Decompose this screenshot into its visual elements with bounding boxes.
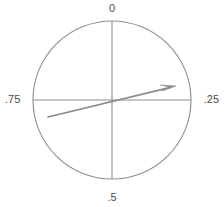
dial-tick-label-top: 0 bbox=[0, 3, 224, 14]
phase-dial-figure: 0 .25 .5 .75 bbox=[0, 0, 224, 207]
dial-tick-label-bottom: .5 bbox=[0, 192, 224, 203]
vector-arrow-shaft bbox=[48, 88, 169, 117]
vector-arrow-head bbox=[160, 85, 176, 91]
dial-tick-label-right: .25 bbox=[204, 94, 219, 105]
dial-tick-label-left: .75 bbox=[5, 94, 20, 105]
dial-canvas bbox=[0, 0, 224, 207]
